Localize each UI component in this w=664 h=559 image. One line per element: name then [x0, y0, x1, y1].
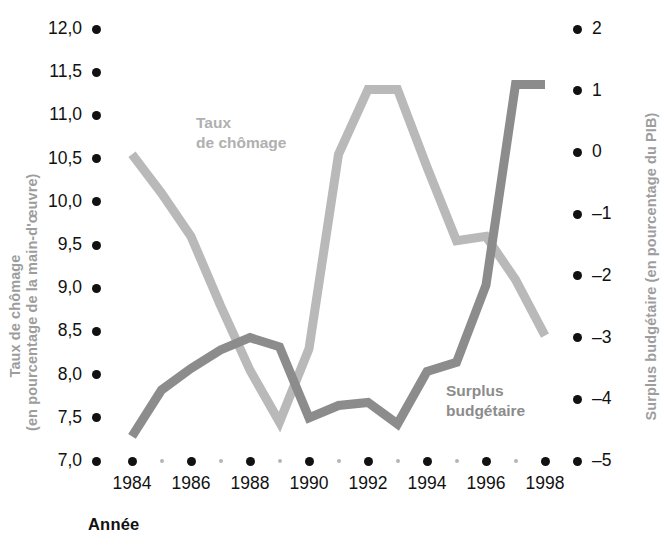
line-taux-de-chomage — [132, 90, 545, 423]
chart-container: Taux de chômage (en pourcentage de la ma… — [0, 0, 664, 559]
line-surplus-budgetaire — [132, 85, 545, 437]
plot-area — [0, 0, 664, 559]
